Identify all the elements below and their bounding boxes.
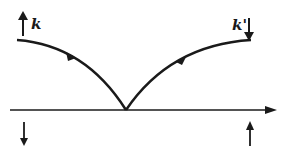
lower-right-spin-arrow-icon <box>246 121 254 146</box>
lower-left-spin-arrow-icon <box>20 122 28 146</box>
scattering-diagram: k k' <box>0 0 287 158</box>
axis-arrowhead-icon <box>265 106 277 114</box>
incoming-trajectory <box>17 40 126 110</box>
outgoing-wavevector-label: k' <box>232 16 247 34</box>
incoming-spin-arrow-icon <box>18 11 28 36</box>
outgoing-trajectory <box>126 40 251 110</box>
incoming-wavevector-label: k <box>31 15 41 33</box>
